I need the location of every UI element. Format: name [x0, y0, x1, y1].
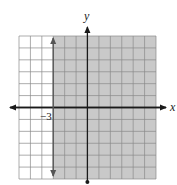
x-axis-label: x [169, 100, 176, 114]
tick-label-neg3: −3 [40, 110, 52, 122]
inequality-graph: y x −3 [0, 0, 177, 185]
y-axis-bottom-dot [85, 180, 89, 184]
y-axis-label: y [83, 9, 90, 23]
